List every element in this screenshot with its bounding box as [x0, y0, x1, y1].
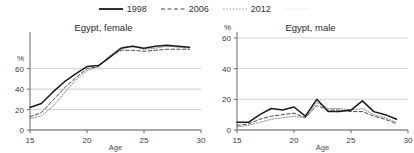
legend-item-1998: 1998: [99, 5, 147, 14]
plot-area-female: 0204060%15202530Age: [0, 18, 207, 153]
x-tick-label: 20: [83, 136, 92, 145]
series-line-1998: [30, 45, 190, 107]
x-tick-label: 30: [404, 136, 413, 145]
legend-item-extra: .: [285, 5, 316, 14]
chart-legend: 1998 2006 2012 .: [0, 0, 414, 18]
legend-label-extra: .: [313, 5, 316, 14]
x-tick-label: 25: [347, 136, 356, 145]
y-axis-unit-label: %: [17, 54, 24, 63]
series-line-2006: [237, 105, 397, 125]
plot-svg-female: 0204060%15202530Age: [0, 18, 207, 153]
x-tick-label: 15: [26, 136, 35, 145]
line-solid-icon: [99, 5, 123, 13]
x-tick-label: 25: [140, 136, 149, 145]
x-axis-label: Age: [316, 143, 329, 152]
plot-area-male: 0204060%15202530Age: [207, 18, 414, 153]
x-tick-label: 30: [197, 136, 206, 145]
y-tick-label: 0: [227, 126, 232, 135]
x-axis-label: Age: [109, 143, 122, 152]
series-line-2006: [30, 49, 190, 116]
x-tick-label: 15: [233, 136, 242, 145]
y-axis-unit-label: %: [224, 23, 231, 32]
y-tick-label: 60: [15, 65, 24, 74]
legend-item-2006: 2006: [161, 5, 209, 14]
line-faint-icon: [285, 5, 309, 13]
y-tick-label: 60: [222, 34, 231, 43]
line-dashed-icon: [161, 5, 185, 13]
legend-label-1998: 1998: [127, 5, 147, 14]
line-dotted-icon: [223, 5, 247, 13]
charts-container: Egypt, female 0204060%15202530Age Egypt,…: [0, 18, 414, 153]
x-tick-label: 20: [290, 136, 299, 145]
legend-label-2012: 2012: [251, 5, 271, 14]
y-tick-label: 20: [222, 95, 231, 104]
y-tick-label: 40: [15, 85, 24, 94]
y-tick-label: 20: [15, 106, 24, 115]
chart-egypt-female: Egypt, female 0204060%15202530Age: [0, 18, 207, 153]
chart-egypt-male: Egypt, male 0204060%15202530Age: [207, 18, 414, 153]
plot-svg-male: 0204060%15202530Age: [207, 18, 414, 153]
y-tick-label: 0: [20, 126, 25, 135]
legend-item-2012: 2012: [223, 5, 271, 14]
y-tick-label: 40: [222, 65, 231, 74]
legend-label-2006: 2006: [189, 5, 209, 14]
